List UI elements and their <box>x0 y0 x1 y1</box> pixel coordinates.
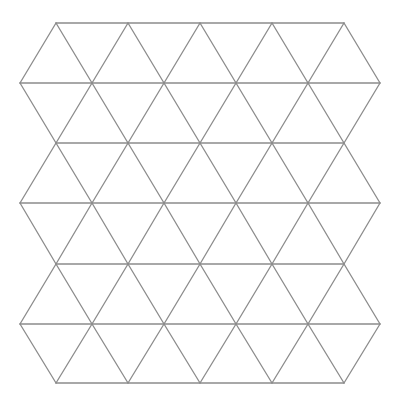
grid-diagonal-line <box>56 264 92 324</box>
horizontal-lines <box>20 23 380 383</box>
grid-diagonal-line <box>20 264 56 324</box>
grid-diagonal-line <box>92 264 128 324</box>
grid-diagonal-line <box>92 23 128 83</box>
triangle-grid <box>0 0 403 400</box>
grid-diagonal-line <box>128 264 164 324</box>
grid-diagonal-line <box>344 23 380 83</box>
grid-diagonal-line <box>164 23 200 83</box>
grid-diagonal-line <box>272 324 308 383</box>
grid-diagonal-line <box>344 143 380 203</box>
grid-diagonal-line <box>200 324 236 383</box>
grid-diagonal-line <box>200 203 236 264</box>
grid-diagonal-line <box>128 83 164 143</box>
grid-diagonal-line <box>236 203 272 264</box>
grid-diagonal-line <box>272 143 308 203</box>
grid-diagonal-line <box>164 264 200 324</box>
grid-diagonal-line <box>308 23 344 83</box>
grid-diagonal-line <box>92 83 128 143</box>
grid-diagonal-line <box>236 23 272 83</box>
grid-diagonal-line <box>272 264 308 324</box>
grid-diagonal-line <box>272 83 308 143</box>
grid-diagonal-line <box>344 324 380 383</box>
grid-diagonal-line <box>200 264 236 324</box>
grid-diagonal-line <box>128 324 164 383</box>
grid-diagonal-line <box>56 83 92 143</box>
grid-diagonal-line <box>56 324 92 383</box>
grid-diagonal-line <box>164 83 200 143</box>
grid-diagonal-line <box>56 23 92 83</box>
grid-diagonal-line <box>308 203 344 264</box>
grid-diagonal-line <box>344 83 380 143</box>
grid-diagonal-line <box>128 203 164 264</box>
grid-diagonal-line <box>236 143 272 203</box>
grid-diagonal-line <box>56 143 92 203</box>
grid-diagonal-line <box>200 143 236 203</box>
grid-diagonal-line <box>92 324 128 383</box>
grid-diagonal-line <box>344 203 380 264</box>
grid-diagonal-line <box>92 203 128 264</box>
grid-diagonal-line <box>200 23 236 83</box>
grid-diagonal-line <box>56 203 92 264</box>
grid-diagonal-line <box>308 324 344 383</box>
grid-diagonal-line <box>20 83 56 143</box>
grid-diagonal-line <box>128 23 164 83</box>
grid-diagonal-line <box>236 324 272 383</box>
grid-diagonal-line <box>164 143 200 203</box>
grid-diagonal-line <box>344 264 380 324</box>
grid-diagonal-line <box>272 23 308 83</box>
grid-diagonal-line <box>308 264 344 324</box>
triangle-grid-canvas <box>0 0 403 400</box>
grid-diagonal-line <box>128 143 164 203</box>
grid-diagonal-line <box>20 143 56 203</box>
grid-diagonal-line <box>164 324 200 383</box>
grid-diagonal-line <box>200 83 236 143</box>
grid-diagonal-line <box>236 264 272 324</box>
grid-diagonal-line <box>92 143 128 203</box>
grid-diagonal-line <box>308 83 344 143</box>
grid-diagonal-line <box>236 83 272 143</box>
grid-diagonal-line <box>20 23 56 83</box>
grid-diagonal-line <box>308 143 344 203</box>
grid-diagonal-line <box>20 324 56 383</box>
grid-diagonal-line <box>164 203 200 264</box>
grid-diagonal-line <box>272 203 308 264</box>
grid-diagonal-line <box>20 203 56 264</box>
